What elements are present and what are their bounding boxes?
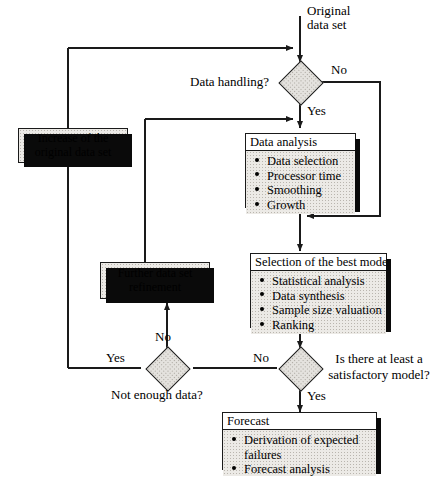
list-item-label: Derivation of expected — [244, 433, 359, 447]
data-analysis-items: Data selection Processor time Smoothing … — [246, 151, 355, 214]
bullet-icon — [232, 466, 236, 470]
list-item-label: Smoothing — [267, 183, 322, 197]
node-refinement-text: Further data set refinement — [114, 267, 197, 294]
node-forecast[interactable]: Forecast Derivation of expected failures… — [222, 412, 377, 470]
node-increase-text: Increase of the original data set — [31, 132, 116, 159]
bullet-icon — [255, 187, 259, 191]
list-item-label: Processor time — [267, 169, 341, 183]
decision-data-handling[interactable] — [285, 67, 315, 97]
start-label: Original data set — [307, 4, 377, 33]
list-item-label: Statistical analysis — [272, 274, 365, 288]
bullet-icon — [260, 322, 264, 326]
decision-satisfactory-model-label: Is there at least a satisfactory model? — [325, 351, 433, 383]
decision-satisfactory-model[interactable] — [285, 353, 315, 383]
list-item-label-cont: failures — [244, 448, 281, 462]
start-label-line2: data set — [307, 18, 377, 32]
node-data-analysis[interactable]: Data analysis Data selection Processor t… — [245, 133, 356, 208]
forecast-items: Derivation of expected failures Forecast… — [223, 430, 376, 476]
list-item: Ranking — [259, 318, 382, 333]
connector-lines — [0, 0, 433, 482]
bullet-icon — [260, 292, 264, 296]
satisfactory-label-line2: satisfactory model? — [325, 367, 433, 383]
edge-label-no-not-enough-data: No — [155, 330, 171, 344]
bullet-icon — [260, 307, 264, 311]
satisfactory-label-line1: Is there at least a — [325, 351, 433, 367]
node-selection-best-model[interactable]: Selection of the best model Statistical … — [250, 253, 387, 328]
list-item: Growth — [254, 198, 351, 213]
list-item: Data selection — [254, 154, 351, 169]
best-model-header: Selection of the best model — [251, 254, 386, 271]
increase-line1: Increase of the — [38, 131, 109, 145]
edge-label-no-data-handling: No — [331, 63, 347, 77]
list-item-label: Data selection — [267, 154, 338, 168]
edge-label-yes-data-handling: Yes — [307, 104, 326, 118]
list-item: Sample size valuation — [259, 303, 382, 318]
bullet-icon — [255, 202, 259, 206]
list-item-label: Ranking — [272, 318, 314, 332]
edge-label-no-satisfactory: No — [253, 351, 269, 365]
list-item: Processor time — [254, 169, 351, 184]
flowchart-canvas: Original data set Data handling? No Yes … — [0, 0, 433, 482]
node-further-refinement[interactable]: Further data set refinement — [100, 262, 210, 299]
decision-data-handling-label: Data handling? — [190, 75, 269, 89]
refinement-line1: Further data set — [118, 266, 193, 280]
list-item-label: Forecast analysis — [244, 462, 330, 476]
list-item: Data synthesis — [259, 289, 382, 304]
edge-label-yes-not-enough-data: Yes — [106, 351, 125, 365]
forecast-header: Forecast — [223, 413, 376, 430]
list-item: Forecast analysis — [231, 462, 372, 477]
increase-line2: original data set — [35, 145, 112, 159]
refinement-line2: refinement — [129, 280, 181, 294]
bullet-icon — [260, 278, 264, 282]
start-label-line1: Original — [307, 4, 377, 18]
list-item-label: Growth — [267, 198, 305, 212]
node-increase-original-data-set[interactable]: Increase of the original data set — [18, 128, 128, 163]
list-item: Statistical analysis — [259, 274, 382, 289]
list-item: Smoothing — [254, 183, 351, 198]
best-model-items: Statistical analysis Data synthesis Samp… — [251, 271, 386, 334]
list-item-label: Data synthesis — [272, 289, 345, 303]
bullet-icon — [255, 172, 259, 176]
list-item: Derivation of expected failures — [231, 433, 372, 462]
edge-label-yes-satisfactory: Yes — [307, 389, 326, 403]
data-analysis-header: Data analysis — [246, 134, 355, 151]
bullet-icon — [255, 158, 259, 162]
list-item-label: Sample size valuation — [272, 303, 382, 317]
decision-not-enough-data-label: Not enough data? — [111, 388, 203, 402]
bullet-icon — [232, 437, 236, 441]
decision-not-enough-data[interactable] — [152, 353, 182, 383]
